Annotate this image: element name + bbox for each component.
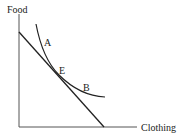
point-label-e: E bbox=[59, 65, 65, 76]
x-axis-label: Clothing bbox=[141, 122, 176, 133]
budget-line bbox=[19, 32, 104, 127]
indifference-curve bbox=[36, 24, 105, 97]
point-label-a: A bbox=[44, 37, 52, 48]
indifference-diagram: Food Clothing A E B bbox=[0, 0, 184, 140]
point-label-b: B bbox=[83, 82, 90, 93]
y-axis-label: Food bbox=[7, 4, 28, 15]
